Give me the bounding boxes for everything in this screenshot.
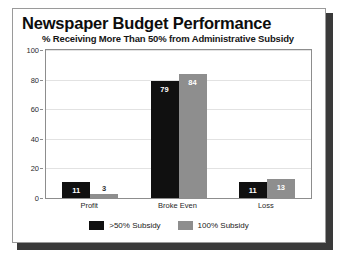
bar-value-label: 3 [90, 184, 118, 193]
y-tick-label: 60 [31, 105, 39, 114]
bar-group: 7984 [151, 50, 207, 198]
legend-swatch-icon [89, 221, 104, 230]
legend-item[interactable]: 100% Subsidy [178, 221, 249, 230]
y-tick-mark [40, 109, 43, 110]
bar-group: 1113 [239, 50, 295, 198]
y-tick-label: 20 [31, 164, 39, 173]
bar-value-label: 84 [179, 78, 207, 87]
chart-card: Newspaper Budget Performance % Receiving… [12, 8, 326, 243]
y-tick-mark [40, 168, 43, 169]
y-tick-mark [40, 139, 43, 140]
bar[interactable]: 11 [239, 182, 267, 198]
plot-area: 11379841113 [45, 49, 312, 199]
bar[interactable]: 11 [62, 182, 90, 198]
chart-subtitle: % Receiving More Than 50% from Administr… [42, 33, 294, 44]
legend-label: 100% Subsidy [198, 221, 249, 230]
y-tick-mark [40, 80, 43, 81]
x-axis: ProfitBroke EvenLoss [45, 201, 312, 215]
bar[interactable]: 84 [179, 74, 207, 198]
legend-item[interactable]: >50% Subsidy [89, 221, 160, 230]
bar[interactable]: 3 [90, 194, 118, 198]
chart-card-wrapper: Newspaper Budget Performance % Receiving… [12, 8, 328, 245]
bar[interactable]: 13 [267, 179, 295, 198]
bar-group: 113 [62, 50, 118, 198]
bar[interactable]: 79 [151, 81, 179, 198]
page-title: Newspaper Budget Performance [22, 14, 271, 33]
x-tick-label: Loss [258, 201, 274, 210]
bar-value-label: 79 [151, 85, 179, 94]
y-tick-label: 80 [31, 75, 39, 84]
y-tick-mark [40, 50, 43, 51]
y-tick-label: 0 [35, 194, 39, 203]
legend-swatch-icon [178, 221, 193, 230]
y-axis: 020406080100 [13, 49, 43, 199]
y-tick-label: 40 [31, 134, 39, 143]
y-tick-label: 100 [26, 46, 39, 55]
y-tick-mark [40, 198, 43, 199]
bar-value-label: 13 [267, 183, 295, 192]
x-tick-label: Profit [80, 201, 98, 210]
chart-legend: >50% Subsidy100% Subsidy [13, 221, 325, 230]
x-tick-label: Broke Even [158, 201, 197, 210]
legend-label: >50% Subsidy [109, 221, 160, 230]
bar-value-label: 11 [239, 186, 267, 195]
bar-value-label: 11 [62, 186, 90, 195]
